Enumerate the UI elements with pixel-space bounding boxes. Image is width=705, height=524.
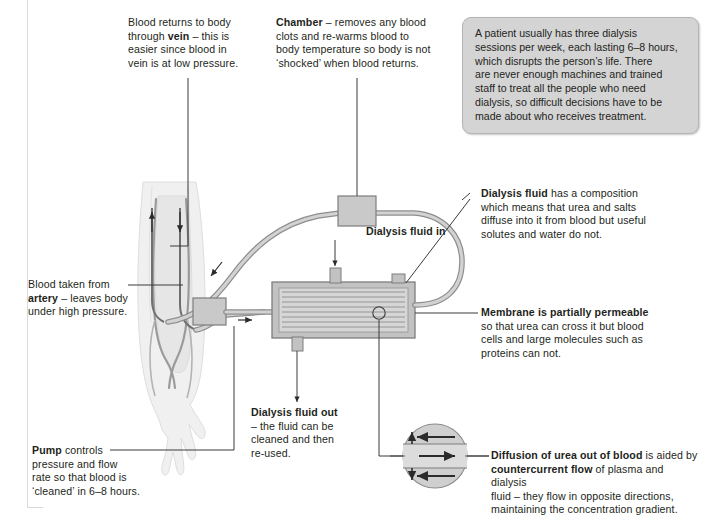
callout-chamber-text: Chamber – removes any bloodclots and re-… — [276, 16, 431, 69]
callout-dialysis-fluid-text: Dialysis fluid has a compositionwhich me… — [481, 187, 646, 240]
callout-fluid-in-text: Dialysis fluid in — [366, 225, 446, 237]
callout-membrane: Membrane is partially permeableso that u… — [481, 306, 681, 360]
callout-artery-text: Blood taken fromartery – leaves bodyunde… — [28, 278, 128, 317]
callout-diffusion-text: Diffusion of urea out of blood is aided … — [491, 449, 697, 515]
callout-membrane-text: Membrane is partially permeableso that u… — [481, 306, 649, 359]
pump-device — [193, 298, 226, 325]
callout-dialysis-fluid: Dialysis fluid has a compositionwhich me… — [481, 187, 681, 241]
callout-artery: Blood taken fromartery – leaves bodyunde… — [28, 278, 136, 319]
callout-pump: Pump controlspressure and flowrate so th… — [32, 444, 152, 498]
patient-info-box: A patient usually has three dialysissess… — [462, 17, 699, 134]
callout-pump-text: Pump controlspressure and flowrate so th… — [32, 444, 140, 497]
callout-diffusion: Diffusion of urea out of blood is aided … — [491, 449, 701, 517]
callout-vein-text: Blood returns to bodythrough vein – this… — [128, 16, 238, 69]
diagram-canvas: Blood returns to bodythrough vein – this… — [0, 0, 705, 524]
chamber-device — [338, 196, 376, 226]
callout-fluid-out: Dialysis fluid out– the fluid can beclea… — [251, 406, 375, 460]
callout-fluid-in: Dialysis fluid in — [366, 225, 486, 239]
patient-info-text: A patient usually has three dialysissess… — [475, 27, 678, 122]
dialyser-unit — [272, 268, 415, 351]
callout-vein: Blood returns to bodythrough vein – this… — [128, 16, 268, 70]
callout-fluid-out-text: Dialysis fluid out– the fluid can beclea… — [251, 406, 338, 459]
callout-chamber: Chamber – removes any bloodclots and re-… — [276, 16, 456, 70]
